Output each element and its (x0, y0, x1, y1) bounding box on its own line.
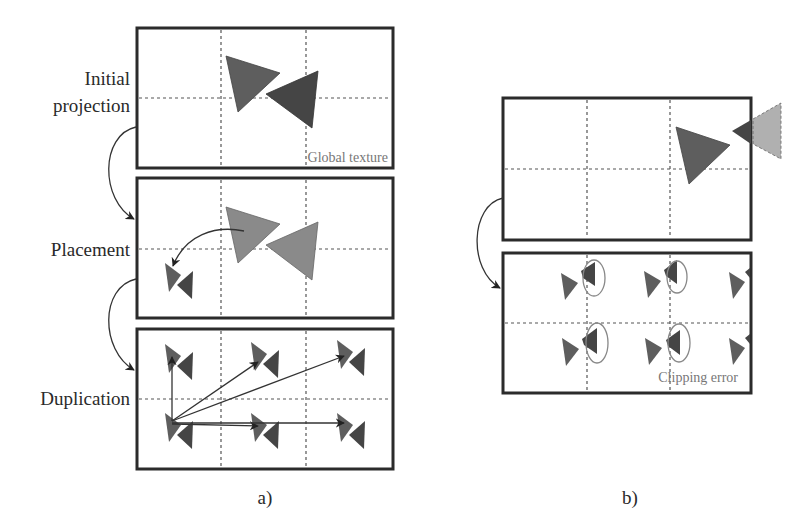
flow-arrow-2 (109, 279, 136, 370)
clipping-error-note: Clipping error (658, 370, 738, 385)
panel-a: Global texture Initial projection Placem… (40, 28, 393, 509)
step-label-duplication: Duplication (40, 388, 130, 409)
panel-b-projection (503, 98, 781, 240)
caption-a: a) (258, 487, 273, 509)
triangle-b-clipped-outside (753, 103, 781, 159)
panel-placement (137, 178, 393, 318)
caption-b: b) (622, 487, 638, 509)
global-texture-note: Global texture (308, 150, 388, 165)
step-label-projection: projection (53, 95, 131, 116)
diagram-canvas: Global texture Initial projection Placem… (0, 0, 800, 526)
step-label-placement: Placement (51, 239, 131, 260)
panel-initial-projection: Global texture (137, 28, 393, 168)
figure: Global texture Initial projection Placem… (0, 0, 800, 526)
flow-arrow-b (477, 198, 503, 288)
panel-b-result: Clipping error (503, 253, 751, 393)
panel-b: Clipping error b) (477, 98, 781, 509)
flow-arrow-1 (109, 127, 136, 219)
panel-duplication (137, 329, 393, 469)
step-label-initial: Initial (85, 68, 130, 89)
